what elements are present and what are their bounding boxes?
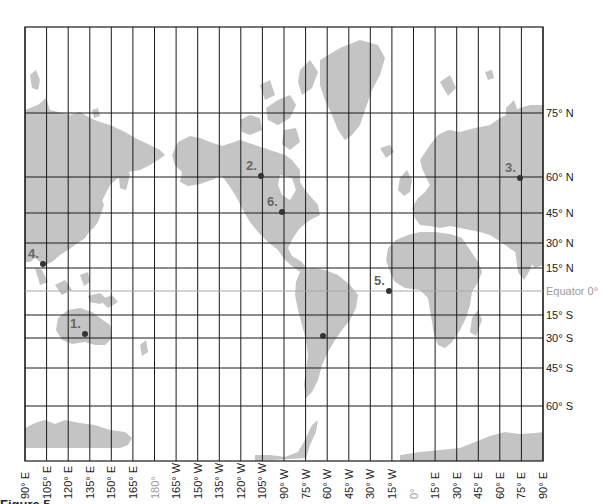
longitude-label: 180° <box>149 476 161 499</box>
world-map: 90° E105° E120° E135° E150° E165° E180°1… <box>0 0 613 504</box>
latitude-label: 30° S <box>546 332 573 344</box>
longitude-label: 0° <box>408 488 420 499</box>
land-asia-east <box>25 98 165 265</box>
land-se-asia-islands <box>35 268 118 308</box>
longitude-label: 150° W <box>192 462 204 499</box>
longitude-label: 30° E <box>451 472 463 499</box>
location-number-label: 1. <box>70 316 81 331</box>
longitude-label: 15° E <box>429 472 441 499</box>
longitude-label: 150° E <box>105 466 117 499</box>
location-dot <box>320 333 326 339</box>
land-canadian-arctic <box>240 60 318 150</box>
longitude-label: 105° E <box>41 466 53 499</box>
land-australia <box>56 308 112 345</box>
latitude-label: 75° N <box>546 107 574 119</box>
longitude-label: 165° E <box>127 466 139 499</box>
longitude-label: 90° E <box>537 472 549 499</box>
latitude-label: 15° N <box>546 262 574 274</box>
longitude-label: 75° W <box>300 468 312 499</box>
land-new-zealand <box>140 340 148 356</box>
location-dot <box>40 261 46 267</box>
location-number-label: 6. <box>267 194 278 209</box>
location-number-label: 3. <box>505 160 516 175</box>
land-madagascar <box>470 310 482 336</box>
land-africa <box>386 232 482 348</box>
latitude-label: Equator 0° <box>546 285 598 297</box>
land-antarctica-peninsula <box>255 420 318 461</box>
location-dot <box>258 173 264 179</box>
longitude-label: 90° W <box>278 468 290 499</box>
longitude-label: 45° E <box>472 472 484 499</box>
latitude-label: 60° S <box>546 400 573 412</box>
longitude-label: 30° W <box>364 468 376 499</box>
longitude-label: 165° W <box>170 462 182 499</box>
figure-caption: Figure 5 <box>0 496 51 504</box>
longitude-label: 75° E <box>515 472 527 499</box>
land-greenland <box>320 40 385 140</box>
longitude-label: 135° E <box>84 466 96 499</box>
location-number-label: 5. <box>374 273 385 288</box>
longitude-label: 105° W <box>256 462 268 499</box>
land-india <box>515 248 535 280</box>
latitude-label: 60° N <box>546 171 574 183</box>
location-dot <box>279 209 285 215</box>
longitude-label: 45° W <box>343 468 355 499</box>
latitude-label: 15° S <box>546 309 573 321</box>
land-antarctica-west <box>25 420 132 448</box>
latitude-label: 45° S <box>546 362 573 374</box>
longitude-label: 15° W <box>386 468 398 499</box>
longitude-label: 120° E <box>62 466 74 499</box>
longitude-label: 90° E <box>19 472 31 499</box>
longitude-label: 60° E <box>494 472 506 499</box>
latitude-label: 30° N <box>546 237 574 249</box>
latitude-label: 45° N <box>546 207 574 219</box>
location-dot <box>82 331 88 337</box>
land-svalbard <box>440 70 494 96</box>
location-number-label: 2. <box>246 158 257 173</box>
longitude-label: 60° W <box>321 468 333 499</box>
longitude-label: 120° W <box>235 462 247 499</box>
longitude-label: 135° W <box>213 462 225 499</box>
location-number-label: 4. <box>28 246 39 261</box>
land-british-isles <box>398 170 412 196</box>
location-dot <box>517 175 523 181</box>
location-dot <box>386 288 392 294</box>
